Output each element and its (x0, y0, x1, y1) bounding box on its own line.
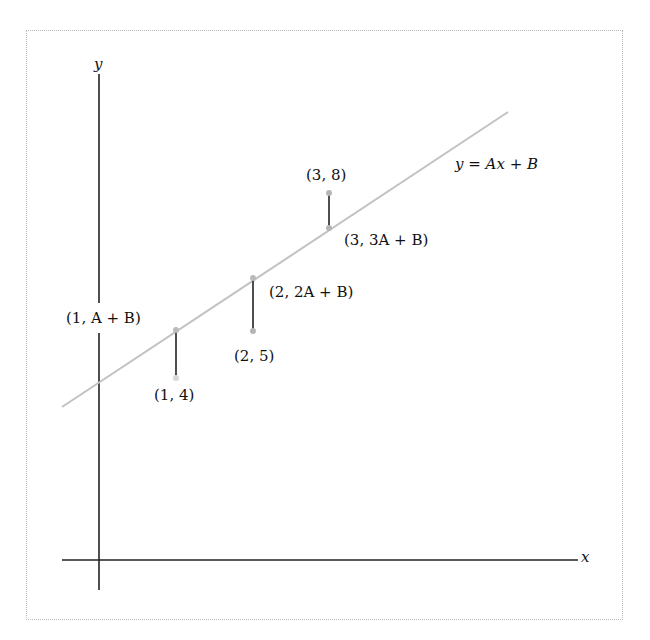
line-point-1-label: (1, A + B) (66, 311, 141, 326)
data-point-3-label: (3, 8) (306, 168, 346, 183)
data-point-1 (173, 375, 179, 381)
data-point-2-label: (2, 5) (234, 349, 274, 364)
line-point-3-label: (3, 3A + B) (344, 233, 428, 248)
data-point-3 (326, 190, 332, 196)
line-point-3 (326, 225, 332, 231)
x-axis-label: x (581, 550, 589, 565)
y-axis-label: y (94, 57, 102, 72)
fit-line (62, 112, 508, 407)
data-point-2 (250, 328, 256, 334)
fit-line-label: y = Ax + B (455, 157, 538, 172)
line-point-2 (250, 275, 256, 281)
data-point-1-label: (1, 4) (154, 388, 194, 403)
line-point-1 (173, 327, 179, 333)
line-point-2-label: (2, 2A + B) (269, 285, 353, 300)
